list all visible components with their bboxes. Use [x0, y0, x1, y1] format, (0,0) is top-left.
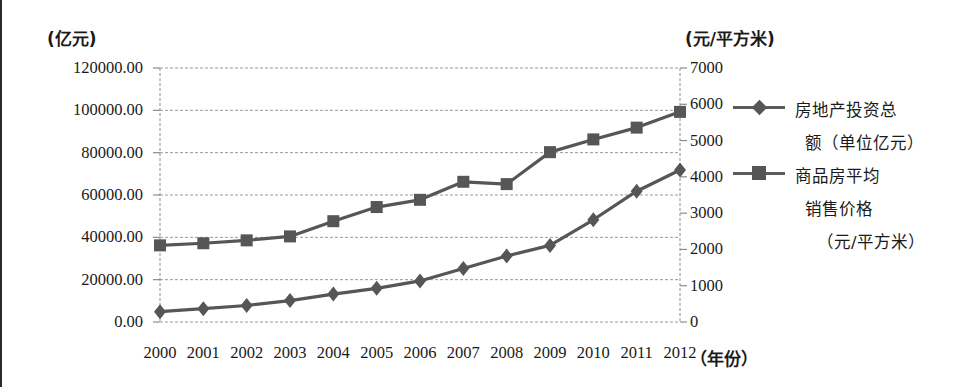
data-point-square: [197, 237, 209, 249]
chart-figure: (亿元) (元/平方米) （年份） 0.0020000.0040000.0060…: [0, 0, 954, 387]
data-point-diamond: [457, 261, 469, 276]
data-point-diamond: [501, 248, 513, 263]
diamond-marker-icon: [733, 106, 785, 109]
data-point-diamond: [631, 184, 643, 199]
data-point-square: [284, 230, 296, 242]
legend-item-investment-cont: 额（单位亿元）: [733, 128, 948, 161]
data-point-square: [631, 122, 643, 134]
data-point-diamond: [241, 298, 253, 313]
legend-item-investment[interactable]: 房地产投资总: [733, 95, 948, 128]
legend-item-price-cont: 销售价格: [733, 194, 948, 227]
data-point-square: [414, 194, 426, 206]
data-point-diamond: [371, 281, 383, 296]
legend-label-price-line1: 商品房平均: [795, 163, 880, 187]
data-point-diamond: [284, 293, 296, 308]
legend-label-price-line3: （元/平方米）: [817, 229, 925, 253]
data-point-square: [587, 133, 599, 145]
series-line: [160, 112, 680, 245]
data-point-square: [674, 106, 686, 118]
data-point-diamond: [674, 163, 686, 178]
data-point-diamond: [327, 287, 339, 302]
data-point-diamond: [414, 273, 426, 288]
data-point-square: [544, 146, 556, 158]
legend-item-price[interactable]: 商品房平均: [733, 161, 948, 194]
data-point-diamond: [197, 301, 209, 316]
data-point-square: [457, 176, 469, 188]
chart-legend: 房地产投资总 额（单位亿元） 商品房平均 销售价格 （元/平方米）: [733, 95, 948, 260]
data-point-square: [327, 215, 339, 227]
data-point-diamond: [587, 212, 599, 227]
data-point-square: [501, 178, 513, 190]
data-point-square: [371, 201, 383, 213]
data-point-diamond: [154, 304, 166, 319]
data-point-square: [241, 234, 253, 246]
legend-label-investment-line1: 房地产投资总: [795, 97, 897, 121]
data-point-diamond: [544, 238, 556, 253]
legend-item-price-cont2: （元/平方米）: [733, 227, 948, 260]
data-point-square: [154, 239, 166, 251]
legend-label-investment-line2: 额（单位亿元）: [805, 130, 924, 154]
square-marker-icon: [733, 172, 785, 175]
series-2: [154, 106, 686, 251]
legend-label-price-line2: 销售价格: [805, 196, 873, 220]
